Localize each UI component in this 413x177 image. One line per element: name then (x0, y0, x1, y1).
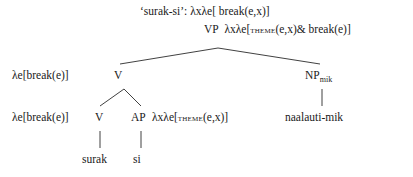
vp-semantics-suffix: (e,x)& break(e)] (275, 23, 350, 35)
edge-vbar-to-ap (124, 89, 141, 106)
vbar-left-semantics: λe[break(e)] (12, 69, 69, 82)
terminal-surak: surak (82, 153, 107, 166)
edge-vp-to-vbar (120, 48, 218, 64)
v-node-category: V (95, 111, 103, 124)
edge-vbar-to-v (100, 89, 124, 106)
np-node-category: NP (305, 69, 320, 81)
ap-node-category: AP (131, 111, 146, 124)
edge-vp-to-np (218, 48, 320, 64)
vp-node-category: VP (204, 23, 219, 35)
v-left-semantics: λe[break(e)] (12, 111, 69, 124)
vbar-node-category: V (114, 69, 122, 82)
vp-node-label: VP λxλe[theme(e,x)& break(e)] (204, 23, 351, 36)
syntax-tree-diagram: ‘surak-si’: λxλe[ break(e,x)] VP λxλe[th… (0, 0, 413, 177)
ap-theme-smallcaps: theme (178, 112, 203, 123)
np-node-label: NPmik (305, 69, 332, 86)
terminal-si: si (133, 153, 141, 166)
vp-semantics: λxλe[theme(e,x)& break(e)] (224, 23, 350, 35)
ap-semantics-prefix: λxλe[ (152, 111, 178, 123)
root-gloss-label: ‘surak-si’: λxλe[ break(e,x)] (140, 5, 270, 18)
np-terminal-word: naalauti-mik (285, 111, 343, 124)
vp-theme-smallcaps: theme (250, 24, 275, 35)
np-case-subscript: mik (320, 75, 332, 84)
ap-semantics: λxλe[theme(e,x)] (152, 111, 228, 124)
ap-semantics-suffix: (e,x)] (203, 111, 228, 123)
vp-semantics-prefix: λxλe[ (224, 23, 250, 35)
